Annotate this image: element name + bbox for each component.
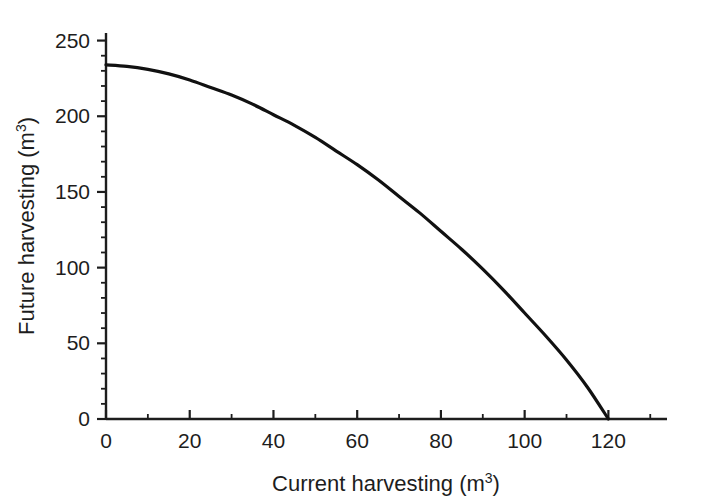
x-tick-label: 100: [507, 429, 542, 452]
svg-text:Future harvesting (m3): Future harvesting (m3): [13, 117, 39, 335]
x-tick-label: 80: [429, 429, 452, 452]
x-axis-title-main: Current harvesting (m: [272, 471, 485, 496]
y-axis-ticks: [97, 41, 106, 419]
y-axis-title-main: Future harvesting (m: [14, 132, 39, 335]
y-axis-title-tail: ): [14, 117, 39, 124]
x-tick-label: 60: [346, 429, 369, 452]
x-tick-label: 0: [100, 429, 112, 452]
x-axis-title: Current harvesting (m3): [272, 470, 500, 496]
x-axis-title-tail: ): [493, 471, 500, 496]
chart-figure: 050100150200250 020406080100120 Current …: [0, 0, 703, 504]
data-series-group: [106, 65, 608, 419]
y-tick-label: 0: [78, 407, 90, 430]
harvesting-frontier-curve: [106, 65, 608, 419]
y-tick-label: 100: [55, 256, 90, 279]
x-tick-label: 20: [178, 429, 201, 452]
x-axis-title-superscript: 3: [485, 470, 493, 486]
y-axis-title: Future harvesting (m3): [13, 117, 39, 335]
x-axis-ticks: [106, 410, 650, 419]
svg-text:Current harvesting (m3): Current harvesting (m3): [272, 470, 500, 496]
y-tick-label: 250: [55, 29, 90, 52]
y-tick-label: 150: [55, 180, 90, 203]
y-tick-label: 200: [55, 104, 90, 127]
harvesting-frontier-chart: 050100150200250 020406080100120 Current …: [0, 0, 703, 504]
y-tick-label: 50: [67, 331, 90, 354]
x-tick-label: 120: [591, 429, 626, 452]
axes-group: [106, 33, 667, 419]
y-axis-tick-labels: 050100150200250: [55, 29, 90, 430]
x-axis-tick-labels: 020406080100120: [100, 429, 626, 452]
x-tick-label: 40: [262, 429, 285, 452]
y-axis-title-superscript: 3: [13, 124, 29, 132]
